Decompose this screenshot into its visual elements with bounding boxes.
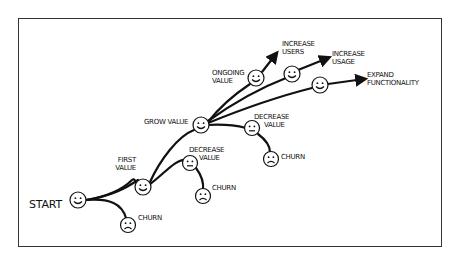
- label-expand-functionality-line2: FUNCTIONALITY: [367, 79, 419, 87]
- edge-ongoing-value-increase-users: [262, 54, 276, 72]
- label-increase-users-line1: INCREASE: [282, 40, 315, 48]
- churn-1-frown-face-icon: [196, 189, 211, 204]
- first-value-smile-face-icon: [135, 179, 151, 195]
- label-start: START: [29, 199, 62, 211]
- label-churn-start: CHURN: [138, 214, 162, 222]
- label-churn-1: CHURN: [212, 184, 236, 192]
- label-first-value-line1: FIRST: [108, 156, 136, 164]
- journey-diagram: [0, 0, 460, 266]
- edge-start-churn: [86, 200, 126, 218]
- label-decrease-value-1: DECREASE VALUE: [189, 146, 224, 162]
- label-increase-users: INCREASE USERS: [282, 40, 315, 56]
- edge-decrease-value-2-churn-2: [258, 134, 270, 152]
- label-increase-usage-line1: INCREASE: [332, 50, 365, 58]
- edge-grow-value-decrease-value-2: [208, 125, 246, 128]
- label-decrease-value-1-line2: VALUE: [189, 154, 224, 162]
- churn-2-frown-face-icon: [264, 152, 279, 167]
- label-ongoing-value-line1: ONGOING: [212, 69, 244, 77]
- label-ongoing-value: ONGOING VALUE: [212, 69, 244, 85]
- label-decrease-value-2-line1: DECREASE: [254, 113, 289, 121]
- label-decrease-value-2-line2: VALUE: [254, 121, 289, 129]
- edge-expand-functionality-arrow: [328, 79, 364, 84]
- label-first-value: FIRST VALUE: [108, 156, 136, 172]
- edge-start-first-value: [86, 179, 138, 200]
- label-decrease-value-1-line1: DECREASE: [189, 146, 224, 154]
- label-churn-2: CHURN: [281, 153, 305, 161]
- edge-increase-usage-arrow: [298, 58, 328, 70]
- label-first-value-line2: VALUE: [108, 164, 136, 172]
- label-expand-functionality-line1: EXPAND: [367, 71, 419, 79]
- grow-value-smile-face-icon: [193, 117, 209, 133]
- label-increase-usage-line2: USAGE: [332, 58, 365, 66]
- ongoing-value-smile-face-icon: [248, 70, 264, 86]
- label-grow-value: GROW VALUE: [144, 118, 188, 126]
- label-increase-usage: INCREASE USAGE: [332, 50, 365, 66]
- increase-usage-smile-face-icon: [284, 66, 300, 82]
- label-decrease-value-2: DECREASE VALUE: [254, 113, 289, 129]
- churn-start-frown-face-icon: [121, 218, 136, 233]
- edge-decrease-value-1-churn-1: [196, 168, 203, 190]
- expand-functionality-smile-face-icon: [312, 77, 328, 93]
- label-expand-functionality: EXPAND FUNCTIONALITY: [367, 71, 419, 87]
- label-increase-users-line2: USERS: [282, 48, 315, 56]
- start-smile-face-icon: [70, 192, 86, 208]
- label-ongoing-value-line2: VALUE: [212, 77, 244, 85]
